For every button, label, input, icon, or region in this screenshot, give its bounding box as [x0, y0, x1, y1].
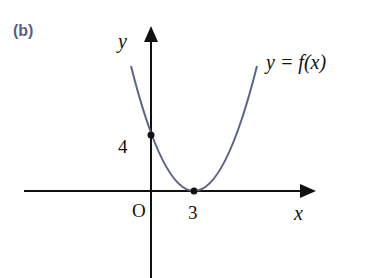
y-axis-arrow-icon: [144, 26, 158, 42]
vertex-point: [191, 188, 198, 195]
y-tick-4: 4: [118, 136, 128, 157]
x-axis-arrow-icon: [300, 184, 316, 198]
y-axis-label: y: [116, 30, 127, 53]
parabola-curve: [131, 66, 257, 191]
x-axis-label: x: [293, 202, 303, 224]
function-graph: y x O 3 4 y = f(x): [0, 0, 365, 278]
origin-label: O: [132, 200, 146, 221]
x-tick-3: 3: [188, 202, 198, 223]
curve-label: y = f(x): [264, 51, 326, 74]
y-intercept-point: [148, 132, 155, 139]
